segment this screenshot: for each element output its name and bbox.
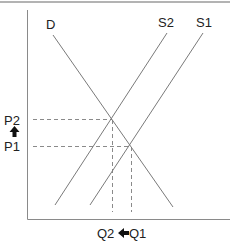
s1-label: S1 — [196, 15, 212, 30]
left-arrow-icon — [118, 228, 129, 238]
supply-demand-diagram: D S2 S1 P2 P1 Q2 Q1 — [0, 0, 230, 244]
p1-label: P1 — [4, 139, 20, 154]
demand-label: D — [46, 17, 55, 32]
q1-label: Q1 — [129, 226, 146, 241]
q2-label: Q2 — [97, 226, 114, 241]
p2-label: P2 — [4, 113, 20, 128]
s2-label: S2 — [158, 15, 174, 30]
